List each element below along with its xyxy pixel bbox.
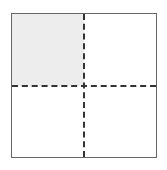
outer-square	[11, 13, 157, 158]
quadrant-diagram	[0, 0, 167, 170]
quadrant-bottom-right	[84, 86, 156, 158]
quadrant-top-right	[84, 14, 156, 86]
quadrant-bottom-left	[12, 86, 84, 158]
quadrant-top-left	[12, 14, 84, 86]
